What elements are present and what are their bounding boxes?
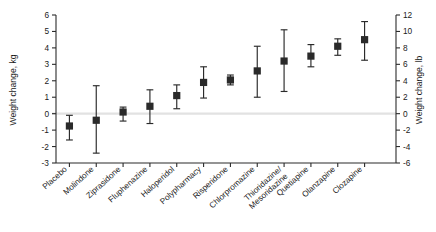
x-axis bbox=[56, 163, 396, 167]
data-point-group bbox=[200, 67, 207, 98]
left-axis-tick-label: 1 bbox=[44, 92, 49, 102]
data-point-group bbox=[361, 22, 368, 61]
right-y-axis: -6-4-2024681012 bbox=[396, 10, 413, 168]
left-axis-tick-label: 4 bbox=[44, 43, 49, 53]
category-labels-layer: PlaceboMolindoneZiprasidoneFluphenazineH… bbox=[41, 164, 365, 211]
data-point-group bbox=[66, 115, 73, 140]
data-point-marker bbox=[173, 92, 180, 99]
data-point-marker bbox=[361, 36, 368, 43]
left-y-axis: -3-2-10123456 bbox=[42, 10, 56, 168]
right-axis-tick-label: 6 bbox=[403, 59, 408, 69]
category-label: Clozapine bbox=[331, 165, 364, 196]
right-axis-tick-label: 2 bbox=[403, 92, 408, 102]
data-point-group bbox=[93, 86, 100, 153]
data-point-group bbox=[146, 90, 153, 124]
category-label-line: Clozapine bbox=[331, 165, 364, 196]
left-axis-tick-label: -1 bbox=[42, 125, 50, 135]
right-axis-tick-label: 10 bbox=[403, 26, 413, 36]
right-axis-tick-label: 0 bbox=[403, 109, 408, 119]
left-axis-tick-label: 5 bbox=[44, 26, 49, 36]
right-axis-tick-label: -4 bbox=[403, 142, 411, 152]
right-axis-tick-label: -2 bbox=[403, 125, 411, 135]
data-points-layer bbox=[66, 22, 368, 154]
data-point-group bbox=[119, 107, 126, 121]
right-axis-tick-label: 4 bbox=[403, 76, 408, 86]
data-point-marker bbox=[200, 79, 207, 86]
left-axis-tick-label: 3 bbox=[44, 59, 49, 69]
data-point-marker bbox=[146, 103, 153, 110]
data-point-group bbox=[227, 75, 234, 85]
data-point-group bbox=[280, 30, 287, 92]
data-point-marker bbox=[227, 76, 234, 83]
data-point-group bbox=[254, 46, 261, 97]
left-axis-tick-label: 2 bbox=[44, 76, 49, 86]
data-point-group bbox=[173, 85, 180, 109]
right-axis-tick-label: 12 bbox=[403, 10, 413, 20]
right-axis-title: Weight change, lb bbox=[414, 55, 424, 124]
data-point-marker bbox=[119, 108, 126, 115]
data-point-marker bbox=[254, 67, 261, 74]
left-axis-title: Weight change, kg bbox=[8, 54, 18, 125]
weight-change-chart: -3-2-10123456 -6-4-2024681012 PlaceboMol… bbox=[0, 0, 436, 232]
data-point-group bbox=[307, 45, 314, 67]
chart-canvas: -3-2-10123456 -6-4-2024681012 PlaceboMol… bbox=[0, 0, 436, 232]
right-axis-tick-label: -6 bbox=[403, 158, 411, 168]
data-point-marker bbox=[280, 57, 287, 64]
left-axis-tick-label: -2 bbox=[42, 142, 50, 152]
data-point-marker bbox=[66, 122, 73, 129]
data-point-marker bbox=[334, 43, 341, 50]
data-point-marker bbox=[307, 53, 314, 60]
data-point-marker bbox=[93, 117, 100, 124]
left-axis-tick-label: 6 bbox=[44, 10, 49, 20]
data-point-group bbox=[334, 39, 341, 55]
left-axis-tick-label: 0 bbox=[44, 109, 49, 119]
right-axis-tick-label: 8 bbox=[403, 43, 408, 53]
left-axis-tick-label: -3 bbox=[42, 158, 50, 168]
